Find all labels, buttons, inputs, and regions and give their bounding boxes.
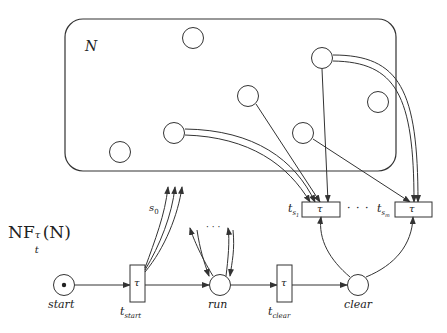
net-label: N: [85, 38, 97, 54]
tau-t-start: τ: [134, 277, 140, 288]
place-n7: [110, 142, 131, 163]
t-start-label: tstart: [120, 305, 141, 320]
place-n3: [238, 86, 259, 107]
tau-t-clear: τ: [281, 277, 287, 288]
place-n4: [368, 92, 389, 113]
t-sm-label: tsm: [377, 202, 390, 219]
token-icon: [62, 283, 66, 287]
tau-t-s1: τ: [317, 203, 323, 214]
place-run: [210, 275, 231, 296]
clear-label: clear: [344, 298, 372, 311]
net-boundary: [65, 19, 396, 171]
tau-t-sm: τ: [409, 203, 415, 214]
s0-label: s0: [149, 202, 159, 216]
start-label: start: [48, 298, 74, 311]
place-n6: [293, 123, 314, 144]
place-clear: [348, 275, 369, 296]
run-ellipsis: · · ·: [206, 222, 220, 232]
t-s1-label: ts1: [288, 202, 299, 219]
t-clear-label: tclear: [268, 305, 290, 320]
run-label: run: [208, 298, 227, 311]
place-n5: [164, 123, 185, 144]
ellipsis: · · ·: [347, 202, 369, 215]
net-title: NFτt(N): [8, 222, 71, 242]
place-n1: [183, 28, 204, 49]
place-n2: [312, 48, 333, 69]
petri-net-diagram: [0, 0, 447, 333]
